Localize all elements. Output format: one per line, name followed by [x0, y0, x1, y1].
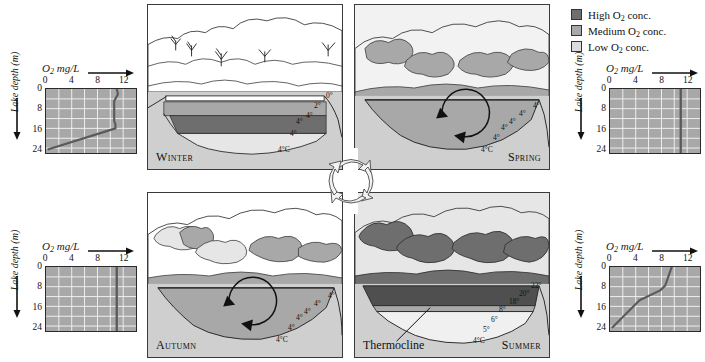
cross-shape — [318, 148, 384, 214]
y-axis-ticks: 0 8 16 24 — [20, 88, 44, 154]
temp-label: 5° — [483, 325, 490, 334]
x-axis-ticks: 0 4 8 12 — [609, 253, 701, 266]
temp-label: 4°C — [276, 335, 288, 344]
x-tick: 8 — [659, 253, 664, 263]
x-tick: 0 — [607, 75, 612, 85]
temp-label: 0° — [326, 91, 333, 100]
temp-label: 4° — [519, 109, 526, 118]
x-axis-ticks: 0 4 8 12 — [45, 75, 137, 88]
plot-area — [45, 266, 137, 332]
lake-seasonal-turnover-figure: High O2 conc. Medium O2 conc. Low O2 con… — [0, 0, 705, 362]
legend-swatch-high-o2 — [571, 9, 582, 20]
season-label-winter: Winter — [156, 150, 193, 165]
y-tick: 24 — [597, 322, 607, 332]
legend-label-medium-o2: Medium O2 conc. — [588, 25, 666, 37]
x-tick: 12 — [119, 75, 129, 85]
x-tick: 8 — [659, 75, 664, 85]
legend-item-high-o2: High O2 conc. — [571, 6, 651, 21]
temp-label: 20° — [519, 289, 530, 298]
y-tick: 0 — [601, 83, 606, 93]
season-label-spring: Spring — [508, 150, 541, 165]
x-tick: 12 — [683, 75, 693, 85]
temp-label: 18° — [509, 297, 520, 306]
x-tick: 4 — [633, 253, 638, 263]
x-tick: 0 — [43, 253, 48, 263]
temp-label: 4° — [290, 129, 297, 138]
temp-label: 4° — [306, 111, 313, 120]
x-tick: 4 — [69, 253, 74, 263]
temp-label: 4° — [533, 101, 540, 110]
temp-label: 4° — [296, 117, 303, 126]
x-tick: 0 — [43, 75, 48, 85]
plot-area — [609, 88, 701, 154]
temp-label: 8° — [499, 305, 506, 314]
chart-spring-o2-profile: O2 mg/L Lake depth (m) 0 4 8 12 0 8 16 2… — [566, 62, 705, 162]
temp-label: 4°C — [481, 145, 493, 154]
season-label-summer: Summer — [502, 338, 541, 353]
temp-label: 22° — [531, 281, 542, 290]
y-tick: 24 — [33, 322, 43, 332]
temp-label: 4° — [328, 291, 335, 300]
plot-area — [45, 88, 137, 154]
thermocline-layer — [373, 306, 535, 312]
x-tick: 12 — [683, 253, 693, 263]
panel-spring: 4° 4° 4° 4° 4° 4°C Spring — [354, 4, 550, 170]
seasonal-cycle-icon — [318, 148, 384, 214]
panel-summer: 22° 20° 18° 8° 6° 5° 4°C Thermocline Sum… — [354, 192, 550, 358]
plot-area — [609, 266, 701, 332]
legend: High O2 conc. Medium O2 conc. Low O2 con… — [571, 6, 703, 54]
temp-label: 4° — [296, 313, 303, 322]
y-tick: 16 — [597, 124, 607, 134]
y-tick: 16 — [33, 302, 43, 312]
temp-label: 2° — [314, 101, 321, 110]
temp-label: 4° — [314, 299, 321, 308]
y-tick: 0 — [37, 261, 42, 271]
data-line-summer — [613, 267, 672, 327]
x-tick: 12 — [119, 253, 129, 263]
y-tick: 0 — [37, 83, 42, 93]
y-tick: 16 — [33, 124, 43, 134]
y-tick: 0 — [601, 261, 606, 271]
x-axis-ticks: 0 4 8 12 — [45, 253, 137, 266]
chart-summer-o2-profile: O2 mg/L Lake depth (m) 0 4 8 12 0 8 16 2… — [566, 240, 705, 340]
legend-swatch-medium-o2 — [571, 25, 582, 36]
y-tick: 8 — [601, 103, 606, 113]
temp-label: 4° — [501, 123, 508, 132]
legend-label-high-o2: High O2 conc. — [588, 9, 651, 21]
temp-label: 4°C — [278, 145, 290, 154]
ice-layer — [166, 96, 324, 101]
temp-label: 4° — [493, 133, 500, 142]
thermocline-label: Thermocline — [363, 338, 424, 353]
x-tick: 8 — [95, 253, 100, 263]
y-axis-ticks: 0 8 16 24 — [20, 266, 44, 332]
temp-label: 4° — [304, 307, 311, 316]
temp-label: 4° — [288, 323, 295, 332]
chart-autumn-o2-profile: O2 mg/L Lake depth (m) 0 4 8 12 0 8 16 2… — [2, 240, 145, 340]
legend-label-low-o2: Low O2 conc. — [588, 41, 649, 53]
y-tick: 16 — [597, 302, 607, 312]
medium-o2-layer — [164, 102, 326, 116]
season-label-autumn: Autumn — [156, 338, 196, 353]
y-tick: 8 — [37, 103, 42, 113]
panel-autumn: 4° 4° 4° 4° 4° 4°C Autumn — [147, 192, 343, 358]
temp-label: 4° — [509, 117, 516, 126]
chart-winter-o2-profile: O2 mg/L Lake depth (m) 0 4 8 12 0 8 16 2… — [2, 62, 145, 162]
x-axis-ticks: 0 4 8 12 — [609, 75, 701, 88]
y-tick: 24 — [33, 144, 43, 154]
y-tick: 8 — [601, 281, 606, 291]
legend-item-medium-o2: Medium O2 conc. — [571, 22, 666, 37]
x-tick: 8 — [95, 75, 100, 85]
x-tick: 0 — [607, 253, 612, 263]
y-tick: 8 — [37, 281, 42, 291]
panel-winter: 0° 2° 4° 4° 4° 4°C Winter — [147, 4, 343, 170]
temp-label: 4°C — [473, 336, 485, 345]
x-tick: 4 — [633, 75, 638, 85]
x-tick: 4 — [69, 75, 74, 85]
temp-label: 6° — [491, 315, 498, 324]
y-axis-ticks: 0 8 16 24 — [584, 266, 608, 332]
y-axis-ticks: 0 8 16 24 — [584, 88, 608, 154]
y-tick: 24 — [597, 144, 607, 154]
